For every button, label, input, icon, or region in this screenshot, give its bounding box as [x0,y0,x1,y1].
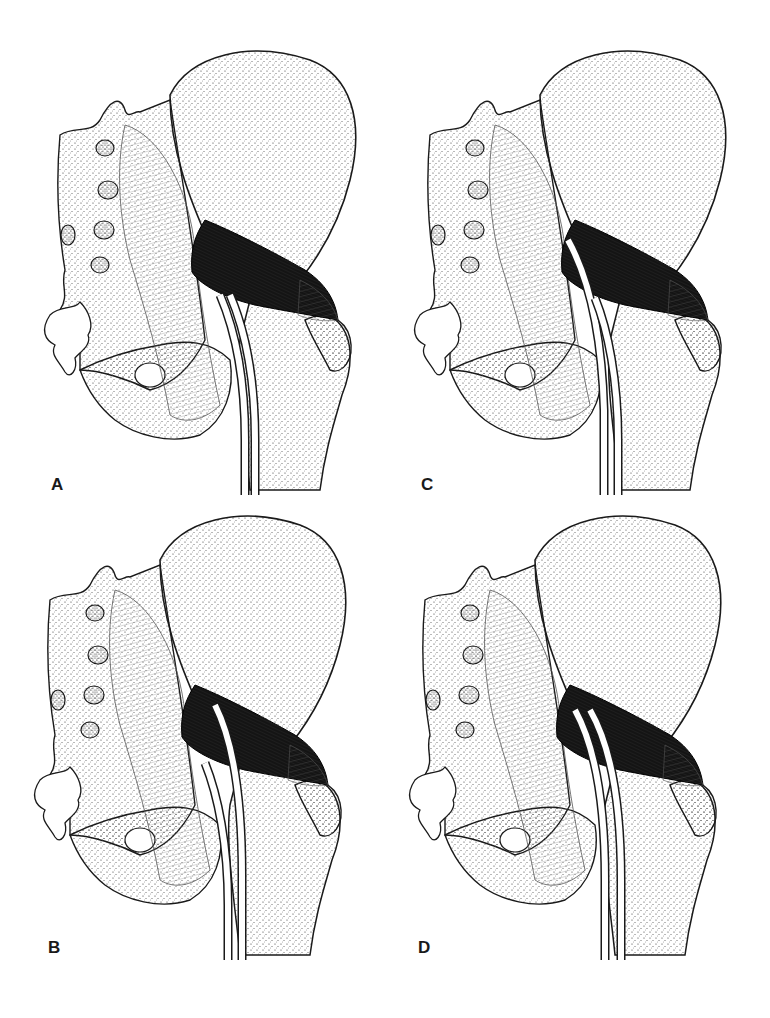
hip-anatomy-illustration-a [20,40,390,500]
hip-anatomy-illustration-c [390,40,760,500]
panel-label-a: A [51,475,63,495]
panel-label-d: D [418,938,430,958]
panel-label-c: C [421,475,433,495]
panel-c-illustration [390,40,760,500]
panel-a-illustration [20,40,390,500]
hip-anatomy-illustration-b [10,505,380,965]
panel-b-illustration [10,505,380,965]
panel-label-b: B [48,938,60,958]
panel-d-illustration [385,505,755,965]
hip-anatomy-illustration-d [385,505,755,965]
